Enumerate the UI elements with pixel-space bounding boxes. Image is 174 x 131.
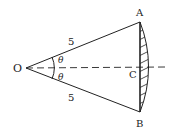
label-O: O <box>13 62 22 75</box>
label-angle-top: θ <box>58 55 64 65</box>
segment-hatching <box>135 14 174 122</box>
label-side-OB: 5 <box>68 92 74 103</box>
label-A: A <box>135 7 144 18</box>
radius-OA <box>26 22 140 68</box>
label-B: B <box>136 118 143 129</box>
label-C: C <box>129 69 137 80</box>
label-angle-bottom: θ <box>58 72 64 82</box>
sector-diagram: O A B C 5 5 θ θ <box>0 0 174 131</box>
label-side-OA: 5 <box>68 36 74 47</box>
bisector-OC <box>26 67 166 68</box>
radius-OB <box>26 68 140 112</box>
